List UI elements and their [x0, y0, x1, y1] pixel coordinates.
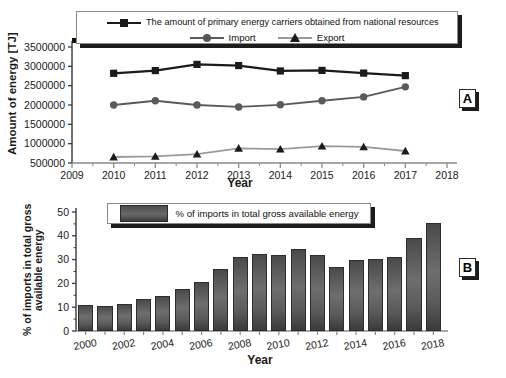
bar-2001: [97, 306, 112, 331]
legend-entry-imports-share: % of imports in total gross available en…: [108, 204, 370, 223]
panel-b-x-tick-label: 2012: [304, 336, 329, 352]
panel-a-marker-0: [318, 67, 325, 74]
bar-2009: [252, 254, 267, 331]
legend-marker-triangle-icon: [278, 33, 312, 42]
panel-a-marker-1: [110, 101, 117, 108]
panel-b-y-tick-label: 40: [57, 229, 69, 241]
panel-a-y-tick-label: 3500000: [24, 41, 65, 53]
panel-b-y-tick-label: 50: [57, 206, 69, 218]
panel-a-y-tick-label: 1000000: [24, 137, 65, 149]
panel-tag-a: A: [459, 89, 476, 108]
panel-a-x-tick-label: 2010: [102, 169, 126, 181]
panel-a-x-tick-label: 2018: [435, 169, 459, 181]
panel-a-marker-1: [235, 103, 242, 110]
panel-a-y-tick-label: 500000: [30, 157, 65, 169]
legend-label-national: The amount of primary energy carriers ob…: [146, 17, 439, 27]
panel-a-marker-0: [402, 72, 409, 79]
legend-label-import: Import: [229, 32, 256, 43]
panel-b-x-tick-label: 2002: [111, 336, 136, 352]
bar-2005: [175, 289, 190, 331]
panel-a-marker-1: [152, 97, 159, 104]
bar-2002: [117, 304, 132, 331]
legend-entries-import-export: Import Export: [77, 30, 457, 44]
bar-2015: [368, 259, 383, 331]
bar-2007: [213, 269, 228, 331]
panel-b-x-tick-label: 2006: [188, 336, 213, 352]
bar-2011: [291, 249, 306, 331]
bar-2012: [310, 255, 325, 331]
panel-b-x-tick-label: 2014: [343, 336, 368, 352]
bar-2010: [271, 255, 286, 331]
legend-marker-circle-icon: [190, 33, 224, 42]
panel-a-marker-1: [360, 93, 367, 100]
legend-label-imports-share: % of imports in total gross available en…: [176, 208, 359, 219]
legend-entry-export: Export: [278, 32, 345, 43]
panel-b-x-tick-label: 2010: [266, 336, 291, 352]
panel-a-marker-0: [235, 62, 242, 69]
legend-label-export: Export: [317, 32, 345, 43]
panel-a-marker-1: [277, 101, 284, 108]
panel-b-x-tick-label: 2004: [150, 336, 175, 352]
panel-a-legend: The amount of primary energy carriers ob…: [76, 11, 458, 44]
panel-a-marker-1: [193, 101, 200, 108]
panel-b-x-tick-label: 2008: [227, 336, 252, 352]
bar-2016: [387, 257, 402, 331]
panel-a-y-tick-label: 2000000: [24, 99, 65, 111]
panel-a-x-tick-label: 2011: [144, 169, 167, 181]
panel-b-y-tick-label: 0: [63, 325, 69, 337]
bar-2013: [329, 267, 344, 331]
panel-a-x-tick-label: 2009: [60, 169, 84, 181]
panel-a-x-tick-label: 2015: [310, 169, 334, 181]
legend-entry-import: Import: [190, 32, 256, 43]
panel-b-x-tick-label: 2018: [420, 336, 445, 352]
legend-swatch-bar-icon: [120, 205, 168, 222]
figure-root: Amount of energy [TJ] Year 5000001000000…: [0, 0, 506, 378]
panel-a-marker-1: [318, 97, 325, 104]
panel-a-marker-0: [193, 61, 200, 68]
legend-marker-square-icon: [107, 18, 141, 27]
panel-a-x-tick-label: 2012: [185, 169, 209, 181]
panel-a-y-tick-label: 2500000: [24, 79, 65, 91]
bar-2003: [136, 299, 151, 331]
panel-tag-b: B: [459, 258, 476, 277]
panel-a-marker-0: [277, 67, 284, 74]
bar-2017: [406, 238, 421, 331]
panel-a-marker-0: [110, 70, 117, 77]
panel-a-y-tick-label: 1500000: [24, 118, 65, 130]
panel-a-marker-0: [360, 70, 367, 77]
panel-a-x-tick-label: 2016: [352, 169, 376, 181]
bar-2004: [155, 296, 170, 331]
panel-b-x-tick-label: 2000: [72, 336, 97, 352]
panel-a-x-tick-label: 2013: [227, 169, 251, 181]
panel-a-x-tick-label: 2014: [269, 169, 293, 181]
panel-b-y-tick-label: 10: [57, 301, 69, 313]
panel-b-y-tick-label: 30: [57, 253, 69, 265]
bar-2018: [426, 223, 441, 331]
panel-a-marker-1: [402, 83, 409, 90]
panel-a-marker-0: [152, 67, 159, 74]
bar-2008: [233, 257, 248, 331]
panel-b-legend: % of imports in total gross available en…: [107, 203, 371, 224]
bar-2006: [194, 282, 209, 331]
panel-a-line-chart: Amount of energy [TJ] Year 5000001000000…: [0, 0, 506, 190]
legend-entry-national: The amount of primary energy carriers ob…: [77, 12, 457, 30]
panel-a-y-tick-label: 3000000: [24, 60, 65, 72]
panel-a-x-tick-label: 2017: [394, 169, 418, 181]
panel-b-x-tick-label: 2016: [381, 336, 406, 352]
panel-b-y-tick-label: 20: [57, 277, 69, 289]
panel-b-bar-chart: % of imports in total gross available en…: [0, 190, 506, 378]
bar-2014: [349, 260, 364, 331]
bar-2000: [78, 305, 93, 331]
